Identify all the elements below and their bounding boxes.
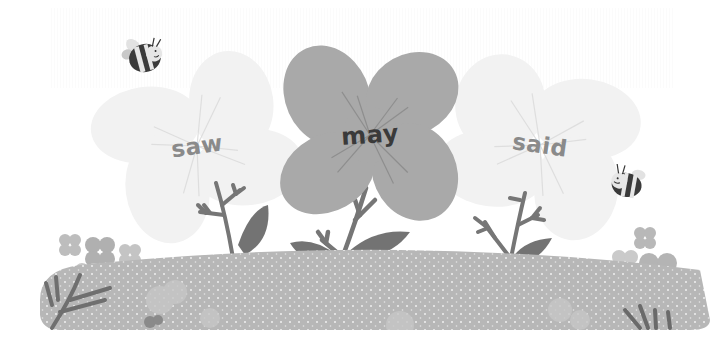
meadow-ground (40, 250, 710, 339)
game-scene: saw may said (0, 0, 720, 349)
word-may[interactable]: may (340, 119, 399, 151)
